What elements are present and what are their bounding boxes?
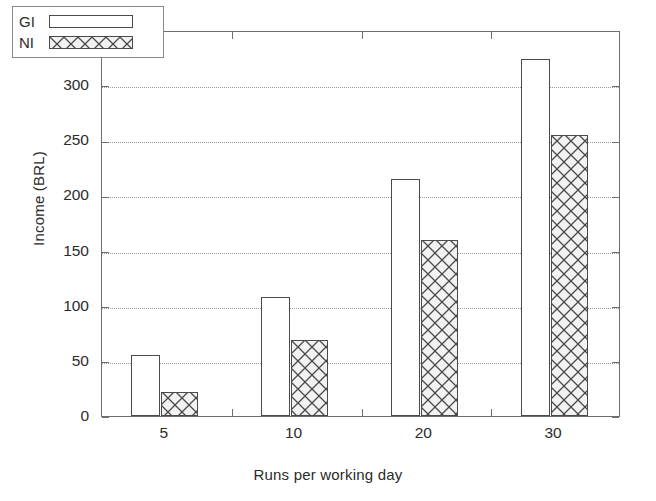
bar-gi-5 [131, 355, 160, 416]
x-tick-mark [232, 409, 233, 416]
x-tick-mark [362, 409, 363, 416]
plot-area [101, 31, 620, 417]
bar-ni-30 [551, 135, 588, 416]
x-tick-label-10: 10 [264, 424, 324, 442]
y-tick-mark [612, 307, 619, 308]
x-tick-label-30: 30 [523, 424, 583, 442]
y-tick-mark [102, 252, 109, 253]
y-tick-mark [102, 197, 109, 198]
x-axis-title: Runs per working day [0, 466, 656, 483]
legend-label-gi: GI [19, 14, 49, 29]
y-tick-mark [612, 417, 619, 418]
y-tick-mark [612, 362, 619, 363]
x-tick-label-20: 20 [393, 424, 453, 442]
y-tick-mark [102, 417, 109, 418]
y-tick-mark [612, 142, 619, 143]
bar-gi-30 [521, 59, 550, 416]
y-tick-label: 150 [0, 242, 89, 260]
chart-figure: Income (BRL) Runs per working day 050100… [0, 0, 656, 501]
y-tick-label: 0 [0, 407, 89, 425]
y-tick-label: 200 [0, 186, 89, 204]
x-tick-mark [232, 32, 233, 39]
legend-label-ni: NI [19, 35, 49, 50]
y-tick-mark [612, 252, 619, 253]
y-tick-mark [612, 31, 619, 32]
y-tick-mark [102, 86, 109, 87]
bar-hatch-fill [291, 340, 328, 416]
y-tick-label: 250 [0, 131, 89, 149]
legend-entry-gi: GI [19, 11, 157, 32]
y-tick-mark [612, 86, 619, 87]
y-tick-label: 50 [0, 352, 89, 370]
y-tick-mark [102, 307, 109, 308]
x-tick-mark [362, 32, 363, 39]
bar-gi-10 [261, 297, 290, 416]
bar-hatch-fill [551, 135, 588, 416]
y-tick-mark [102, 142, 109, 143]
y-tick-mark [102, 362, 109, 363]
y-tick-label: 100 [0, 297, 89, 315]
legend: GI NI [12, 6, 164, 58]
x-tick-mark [491, 409, 492, 416]
legend-swatch-gi [49, 15, 133, 28]
legend-entry-ni: NI [19, 32, 157, 53]
y-tick-label: 300 [0, 76, 89, 94]
x-tick-label-5: 5 [134, 424, 194, 442]
x-tick-mark [491, 32, 492, 39]
bar-hatch-fill [421, 240, 458, 416]
bar-ni-5 [161, 392, 198, 416]
y-tick-mark [612, 197, 619, 198]
bar-ni-20 [421, 240, 458, 416]
legend-swatch-ni [49, 36, 133, 49]
bar-hatch-fill [161, 392, 198, 416]
bar-ni-10 [291, 340, 328, 416]
bar-gi-20 [391, 179, 420, 416]
legend-swatch-ni-pattern [50, 37, 132, 48]
